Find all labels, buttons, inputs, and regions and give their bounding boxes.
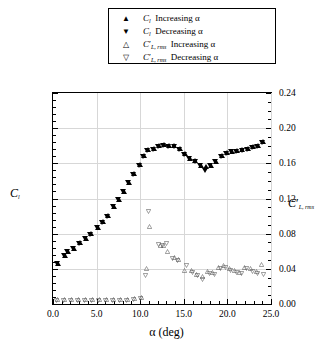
y-axis-right-tick [266, 163, 271, 164]
y-axis-left-minor-tick [53, 227, 56, 228]
legend-item-0: ▲Cl Increasing α [109, 12, 275, 25]
y-axis-right-minor-tick [268, 225, 271, 226]
legend-item-3: ▽C′L, rms Decreasing α [109, 51, 275, 64]
y-axis-left-minor-tick [53, 255, 56, 256]
data-point [212, 159, 218, 164]
filled-up-triangle-icon: ▲ [109, 15, 143, 23]
data-point [64, 249, 70, 254]
y-axis-right-minor-tick [268, 111, 271, 112]
x-axis-minor-tick [201, 301, 202, 304]
filled-down-triangle-icon: ▼ [109, 28, 143, 36]
y-axis-right-tick [266, 269, 271, 270]
y-axis-right-minor-tick [268, 278, 271, 279]
open-up-triangle-icon: △ [109, 41, 143, 49]
y-axis-left-minor-tick [53, 170, 56, 171]
y-axis-left-tick [53, 234, 58, 235]
data-point [164, 241, 169, 246]
y-axis-right-minor-tick [268, 190, 271, 191]
data-point [212, 272, 217, 277]
y-axis-right-minor-tick [268, 207, 271, 208]
data-point [244, 266, 249, 271]
legend-item-label: Cl Increasing α [143, 14, 200, 24]
data-point [110, 298, 115, 303]
y-axis-right-minor-tick [268, 251, 271, 252]
data-point [138, 296, 143, 301]
y-axis-left-minor-tick [53, 290, 56, 291]
x-axis-minor-tick [175, 301, 176, 304]
data-point [76, 241, 82, 246]
legend-item-label: C′L, rms Increasing α [143, 40, 215, 50]
data-point [61, 298, 66, 303]
data-point [239, 271, 244, 276]
x-axis-minor-tick [236, 301, 237, 304]
data-point [54, 261, 60, 266]
y-axis-right-minor-tick [268, 295, 271, 296]
data-point [144, 266, 149, 271]
data-point [87, 232, 93, 237]
data-point [104, 214, 110, 219]
data-point [70, 246, 76, 251]
y-axis-left-title: Cl [10, 186, 20, 201]
y-axis-left-tick [53, 199, 58, 200]
y-axis-right-minor-tick [268, 260, 271, 261]
y-axis-left-minor-tick [53, 135, 56, 136]
y-axis-right-minor-tick [268, 137, 271, 138]
y-axis-left-minor-tick [53, 184, 56, 185]
data-point [130, 172, 136, 177]
gridline-horizontal [53, 163, 271, 164]
y-axis-left-minor-tick [53, 206, 56, 207]
data-point [259, 262, 264, 267]
y-axis-left-minor-tick [53, 100, 56, 101]
y-axis-left-minor-tick [53, 114, 56, 115]
chart-legend: ▲Cl Increasing α▼Cl Decreasing α△C′L, rm… [108, 8, 276, 64]
x-axis-minor-tick [219, 301, 220, 304]
y-axis-right-tick-label: 0.24 [279, 88, 321, 98]
data-point [82, 298, 87, 303]
data-point [96, 298, 101, 303]
y-axis-left-minor-tick [53, 107, 56, 108]
y-axis-left-tick [53, 128, 58, 129]
legend-item-2: △C′L, rms Increasing α [109, 38, 275, 51]
data-point [94, 225, 100, 230]
y-axis-left-minor-tick [53, 220, 56, 221]
y-axis-right-minor-tick [268, 286, 271, 287]
x-axis-minor-tick [149, 301, 150, 304]
y-axis-right-tick [266, 128, 271, 129]
x-axis-tick [184, 299, 185, 304]
data-point [117, 298, 122, 303]
data-point [54, 298, 59, 303]
data-point [75, 298, 80, 303]
y-axis-left-minor-tick [53, 241, 56, 242]
y-axis-left-tick [53, 93, 58, 94]
x-axis-minor-tick [245, 301, 246, 304]
x-axis-minor-tick [262, 301, 263, 304]
x-axis-tick [227, 299, 228, 304]
data-point [136, 163, 142, 168]
y-axis-left-tick [53, 269, 58, 270]
y-axis-left-minor-tick [53, 283, 56, 284]
y-axis-right-minor-tick [268, 102, 271, 103]
y-axis-left-minor-tick [53, 121, 56, 122]
gridline-vertical [271, 93, 272, 304]
y-axis-left-tick [53, 304, 58, 305]
y-axis-right-minor-tick [268, 242, 271, 243]
y-axis-right-tick-label: 0.08 [279, 229, 321, 239]
x-axis-title: α (deg) [0, 325, 333, 340]
x-axis-tick-label: 5.0 [77, 309, 117, 319]
data-point [68, 298, 73, 303]
plot-area: 0.05.010.015.020.025.00.000.250.500.751.… [52, 92, 272, 305]
legend-item-1: ▼Cl Decreasing α [109, 25, 275, 38]
data-point [176, 147, 182, 152]
x-axis-title-label: α (deg) [149, 325, 184, 339]
y-axis-left-minor-tick [53, 276, 56, 277]
data-point [165, 249, 170, 254]
x-axis-tick-label: 15.0 [164, 309, 204, 319]
y-axis-right-minor-tick [268, 181, 271, 182]
x-axis-minor-tick [193, 301, 194, 304]
y-axis-right-minor-tick [268, 172, 271, 173]
x-axis-tick-label: 20.0 [207, 309, 247, 319]
y-axis-right-tick-label: 0.04 [279, 264, 321, 274]
data-point [147, 224, 152, 229]
y-axis-left-minor-tick [53, 248, 56, 249]
y-axis-right-title: C′L, rms [288, 196, 314, 211]
